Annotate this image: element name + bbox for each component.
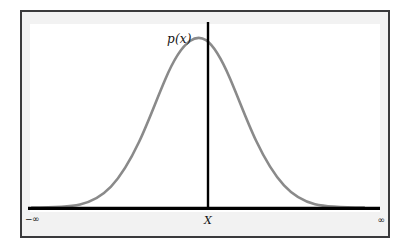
figure-root: p(x) X −∞ ∞ (0, 0, 410, 251)
normal-density-curve (32, 38, 364, 208)
plot-svg (22, 12, 388, 236)
negative-infinity-label: −∞ (25, 215, 39, 224)
positive-infinity-label: ∞ (378, 216, 386, 225)
x-axis-label: X (204, 215, 212, 226)
figure-frame: p(x) X −∞ ∞ (20, 10, 390, 238)
density-label: p(x) (167, 33, 192, 45)
